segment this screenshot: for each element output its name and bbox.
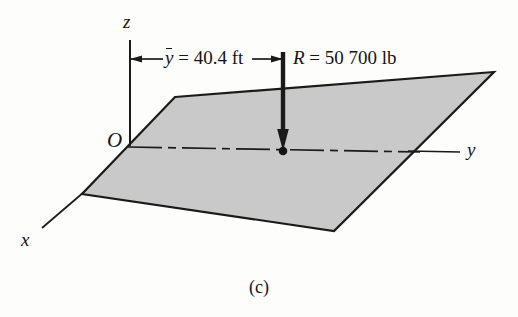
origin-label: O [107, 128, 122, 153]
x-axis-label: x [21, 229, 29, 251]
force-equals: = [309, 47, 320, 68]
x-axis-line [42, 192, 84, 228]
force-value: 50 700 [325, 47, 377, 68]
force-symbol: R [293, 47, 305, 68]
force-unit: lb [382, 47, 397, 68]
figure-container: z y x O y = 40.4 ft R = 50 700 lb (c) [0, 0, 518, 317]
dimension-equals: = [178, 47, 189, 68]
dimension-label: y = 40.4 ft [165, 47, 243, 69]
figure-caption: (c) [249, 277, 269, 298]
diagram-svg [0, 0, 518, 317]
force-label: R = 50 700 lb [293, 47, 397, 69]
application-point-dot [279, 147, 288, 156]
z-axis-label: z [123, 11, 130, 33]
y-bar-symbol: y [165, 47, 173, 69]
dimension-unit: ft [232, 47, 244, 68]
y-bar-glyph: y [165, 47, 173, 68]
y-axis-label: y [467, 139, 475, 161]
dimension-value: 40.4 [194, 47, 227, 68]
y-axis-outer-line [408, 151, 460, 152]
overbar [166, 48, 173, 50]
dimension-arrowhead-left [130, 55, 142, 62]
